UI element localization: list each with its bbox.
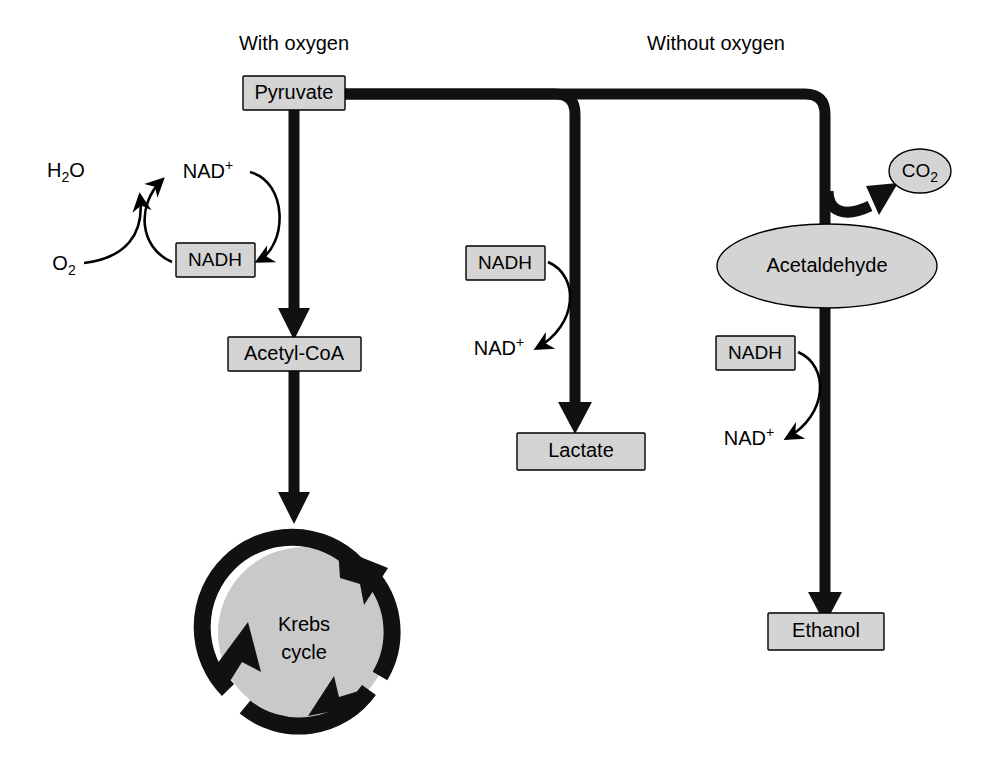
krebs-cycle-label-line2: cycle bbox=[281, 641, 327, 663]
arrowhead-to-lactate bbox=[558, 402, 592, 434]
header-with-oxygen: With oxygen bbox=[239, 32, 349, 54]
label-nad-plus-ethanol: NAD+ bbox=[724, 424, 774, 450]
arc-o2-to-h2o bbox=[84, 196, 141, 263]
krebs-cycle-label-line1: Krebs bbox=[278, 613, 330, 635]
label-pyruvate: Pyruvate bbox=[255, 81, 334, 103]
diagram-canvas: With oxygen Without oxygen Krebs cycle H… bbox=[0, 0, 996, 766]
label-nadh-aerobic: NADH bbox=[188, 249, 242, 270]
label-acetaldehyde: Acetaldehyde bbox=[766, 254, 887, 276]
label-nadh-lactate: NADH bbox=[478, 252, 532, 273]
header-without-oxygen: Without oxygen bbox=[647, 32, 785, 54]
label-oxygen: O2 bbox=[52, 252, 76, 277]
label-nad-plus-aerobic: NAD+ bbox=[183, 157, 233, 183]
label-acetyl-coa: Acetyl-CoA bbox=[244, 342, 345, 364]
arrowhead-to-acetylcoa bbox=[278, 308, 310, 340]
label-lactate: Lactate bbox=[548, 439, 614, 461]
flow-co2-release bbox=[828, 191, 870, 212]
label-nad-plus-lactate: NAD+ bbox=[474, 334, 524, 360]
label-nadh-ethanol: NADH bbox=[728, 342, 782, 363]
arc-nadh-to-nadplus bbox=[145, 180, 172, 262]
label-water: H2O bbox=[47, 159, 85, 184]
label-ethanol: Ethanol bbox=[792, 619, 860, 641]
cellular-respiration-fermentation-diagram: With oxygen Without oxygen Krebs cycle H… bbox=[0, 0, 996, 766]
arrowhead-to-krebs bbox=[278, 492, 310, 524]
